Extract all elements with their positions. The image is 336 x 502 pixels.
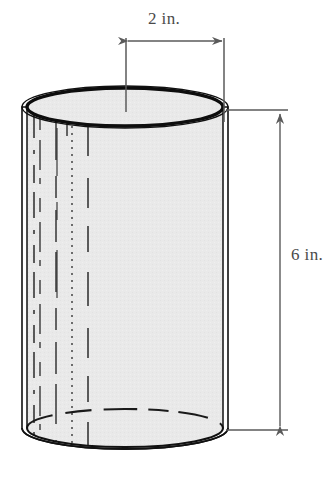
cylinder-shape-icon — [22, 86, 228, 452]
cylinder-figure: 2 in. 6 in. — [0, 0, 336, 502]
height-dimension-group — [226, 110, 288, 430]
cylinder-top-ellipse — [27, 88, 223, 126]
width-dimension-label: 2 in. — [148, 9, 180, 29]
height-dimension-label: 6 in. — [291, 245, 323, 265]
cylinder-diagram-svg — [0, 0, 336, 502]
